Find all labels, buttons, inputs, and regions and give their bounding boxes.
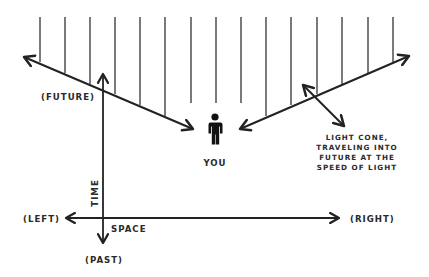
future-label: (FUTURE) [41,92,95,102]
caption-line-4: SPEED OF LIGHT [317,163,397,172]
light-cone-caption: LIGHT CONE, TRAVELING INTO FUTURE AT THE… [316,133,397,172]
caption-line-2: TRAVELING INTO [316,143,397,152]
time-label: TIME [90,179,100,206]
caption-line-3: FUTURE AT THE [319,153,395,162]
light-cone-pointer-arrow [303,85,344,126]
right-label: (RIGHT) [350,214,395,224]
person-icon [209,113,223,144]
you-label: YOU [202,158,226,168]
light-cone-diagram: (FUTURE) YOU (LEFT) (RIGHT) SPACE (PAST)… [0,0,429,277]
caption-line-1: LIGHT CONE, [326,133,389,142]
left-label: (LEFT) [23,214,60,224]
past-label: (PAST) [85,255,123,265]
space-label: SPACE [111,224,147,234]
